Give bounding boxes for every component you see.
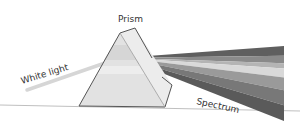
prism-diagram: Prism White light Spectrum: [0, 0, 300, 130]
spectrum-band-1: [134, 46, 284, 58]
prism-label: Prism: [118, 14, 143, 24]
prism-light-band: [97, 66, 146, 74]
